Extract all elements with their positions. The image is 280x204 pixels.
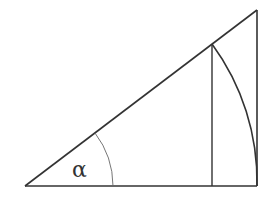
hypotenuse-line: [25, 10, 257, 186]
triangle-diagram: α: [0, 0, 280, 204]
angle-alpha-label: α: [72, 157, 87, 182]
angle-arc: [95, 133, 113, 186]
large-arc: [212, 44, 257, 186]
